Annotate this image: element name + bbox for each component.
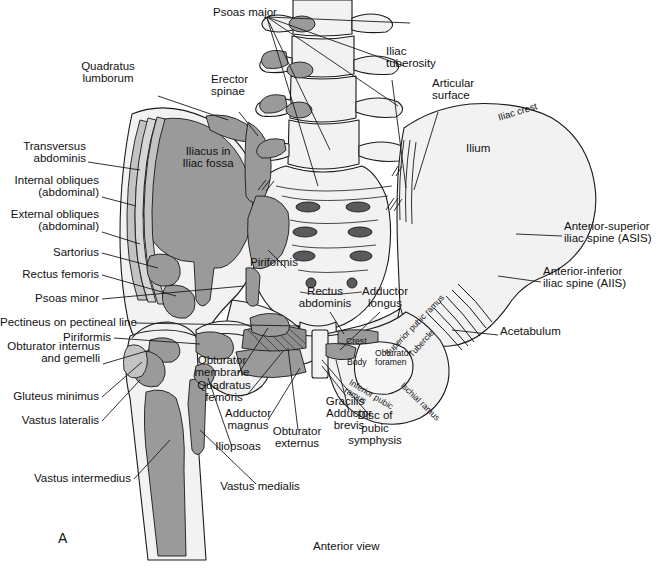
label-psoas-minor: Psoas minor: [0, 292, 99, 305]
label-rectus-femoris: Rectus femoris: [0, 268, 99, 281]
label-internal-obliques: Internal obliques (abdominal): [0, 174, 99, 199]
label-gluteus-minimus: Gluteus minimus: [0, 390, 99, 403]
label-articular-surface: Articular surface: [432, 77, 474, 102]
label-crest: Crest: [346, 337, 367, 346]
label-transversus-abdominis: Transversus abdominis: [0, 140, 86, 165]
label-anterior-inferior-iliac-spine: Anterior-inferior iliac spine (AIIS): [543, 265, 626, 290]
panel-letter: A: [58, 532, 67, 545]
label-sartorius: Sartorius: [0, 246, 99, 259]
label-piriformis-center: Piriformis: [250, 256, 298, 269]
figure-canvas: Quadratus lumborumTransversus abdominisI…: [0, 0, 658, 571]
label-pectineus-on-pectineal-line: Pectineus on pectineal line: [0, 316, 132, 329]
label-obturator-membrane: Obturator membrane: [132, 354, 312, 379]
label-external-obliques: External obliques (abdominal): [0, 208, 99, 233]
label-acetabulum: Acetabulum: [500, 325, 561, 338]
label-vastus-medialis: Vastus medialis: [170, 480, 350, 493]
label-vastus-intermedius: Vastus intermedius: [0, 472, 131, 485]
label-erector-spinae: Erector spinae: [211, 73, 248, 98]
label-body: Body: [347, 358, 367, 367]
label-iliac-tuberosity: Iliac tuberosity: [386, 45, 436, 70]
label-iliacus-in-iliac-fossa: Iliacus in Iliac fossa: [118, 145, 298, 170]
label-ilium: Ilium: [466, 142, 490, 155]
label-adductor-longus: Adductor longus: [295, 285, 475, 310]
label-obturator-foramen: Obturator foramen: [375, 349, 411, 368]
label-obturator-internus-and-gemelli: Obturator internus and gemelli: [0, 340, 100, 365]
label-vastus-lateralis: Vastus lateralis: [0, 414, 99, 427]
label-anterior-superior-iliac-spine: Anterior-superior iliac spine (ASIS): [564, 220, 652, 245]
label-quadratus-lumborum: Quadratus lumborum: [18, 60, 198, 85]
label-psoas-major: Psoas major: [213, 6, 277, 19]
figure-caption: Anterior view: [313, 540, 379, 553]
